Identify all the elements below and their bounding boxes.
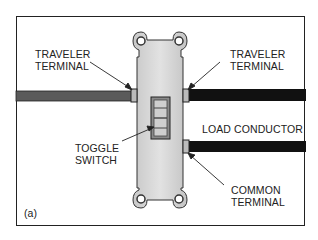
mounting-hole-icon xyxy=(175,37,183,45)
label-traveler-terminal-left: TRAVELER TERMINAL xyxy=(35,48,90,72)
figure-label: (a) xyxy=(24,207,37,219)
load-conductor-wire xyxy=(186,141,306,152)
label-toggle-switch: TOGGLE SWITCH xyxy=(75,142,119,166)
right-traveler-terminal xyxy=(183,89,189,102)
label-common-terminal: COMMON TERMINAL xyxy=(231,184,285,208)
mounting-hole-icon xyxy=(137,37,145,45)
right-traveler-wire xyxy=(186,89,306,101)
left-traveler-terminal xyxy=(131,89,137,102)
common-terminal xyxy=(183,140,189,153)
mounting-hole-icon xyxy=(175,195,183,203)
label-load-conductor: LOAD CONDUCTOR xyxy=(202,123,303,135)
left-traveler-wire xyxy=(16,91,134,101)
mounting-hole-icon xyxy=(137,195,145,203)
label-traveler-terminal-right: TRAVELER TERMINAL xyxy=(230,48,285,72)
